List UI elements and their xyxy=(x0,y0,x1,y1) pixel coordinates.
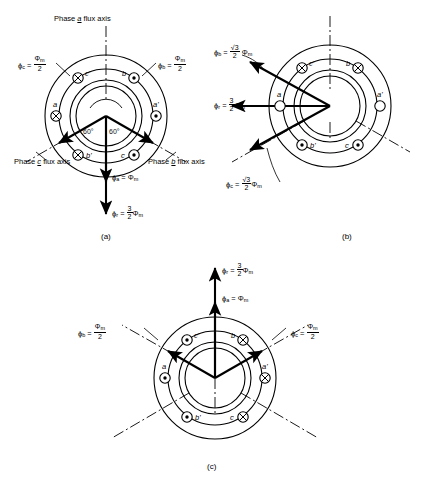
phi-a-label: ϕa = Φm xyxy=(222,295,248,304)
coil-a-prime xyxy=(151,111,161,121)
coil-b xyxy=(353,63,363,73)
coil-label-a-prime: a' xyxy=(153,100,159,109)
coil-a-prime xyxy=(260,373,270,383)
coil-label-b: b xyxy=(346,59,350,68)
coil-label-b-prime: b' xyxy=(86,151,92,160)
phi-b-vector-b xyxy=(250,62,330,106)
angle-label-left: 60° xyxy=(83,128,94,135)
panel-a-drawing: c' b a a' b' c xyxy=(0,0,212,250)
panel-a: c' b a a' b' c Phase a flux axis Phase c… xyxy=(0,0,212,250)
coil-label-c: c xyxy=(121,151,125,160)
phi-c-vector-b xyxy=(250,106,330,150)
phi-b-vector-c xyxy=(168,351,215,378)
coil-label-c-prime: c' xyxy=(194,331,200,340)
phi-c-label: ϕc = Φm2 xyxy=(291,323,319,340)
caption-b: (b) xyxy=(342,232,352,241)
coil-c-prime xyxy=(297,63,307,73)
coil-label-c-prime: c' xyxy=(85,69,91,78)
phi-c-label: ϕc = Φm2 xyxy=(18,55,46,72)
phi-r-label: ϕr = 32Φm xyxy=(214,97,245,112)
panel-c-drawing: c' b a a' b' c xyxy=(50,250,380,484)
coil-label-b-prime: b' xyxy=(195,413,201,422)
coil-c-prime xyxy=(182,335,192,345)
coil-c xyxy=(353,140,363,150)
phi-b-label: ϕb = Φm2 xyxy=(78,323,106,340)
coil-label-c: c xyxy=(230,413,234,422)
phi-r-label: ϕr = 32Φm xyxy=(112,205,143,220)
coil-label-a-prime: a' xyxy=(377,90,383,99)
panel-c: c' b a a' b' c ϕr = 32Φm ϕa = Φm ϕb = Φm… xyxy=(50,250,380,484)
caption-a: (a) xyxy=(101,232,111,241)
coil-label-a-prime: a' xyxy=(262,362,268,371)
coil-a xyxy=(160,373,170,383)
angle-label-right: 60° xyxy=(109,128,120,135)
phi-b-label: ϕb = √32 Φm xyxy=(214,44,252,59)
panel-b: c' b a a' b' c ϕb = √32 Φm ϕr = 32Φm ϕc … xyxy=(212,0,424,250)
phi-c-label: ϕc = √32Φm xyxy=(226,176,262,191)
coil-b xyxy=(238,335,248,345)
coil-label-c-prime: c' xyxy=(309,59,315,68)
coil-label-b: b xyxy=(231,331,235,340)
phase-c-axis-label: Phase c flux axis xyxy=(14,158,70,167)
coil-label-b-prime: b' xyxy=(310,141,316,150)
coil-label-b: b xyxy=(122,69,126,78)
phi-b-label: ϕb = Φm2 xyxy=(158,55,186,72)
coil-label-c: c xyxy=(345,141,349,150)
caption-c: (c) xyxy=(207,462,216,471)
phase-b-axis-label: Phase b flux axis xyxy=(148,158,205,167)
coil-b xyxy=(129,73,139,83)
coil-c xyxy=(129,150,139,160)
phi-c-vector-c xyxy=(215,351,262,378)
coil-b-prime xyxy=(297,140,307,150)
panel-b-drawing: c' b a a' b' c xyxy=(212,0,424,250)
coil-label-a: a xyxy=(277,90,281,99)
coil-a xyxy=(275,101,285,111)
coil-a xyxy=(51,111,61,121)
coil-label-a: a xyxy=(162,362,166,371)
coil-a-prime xyxy=(375,101,385,111)
coil-c xyxy=(238,412,248,422)
phi-r-label: ϕr = 32Φm xyxy=(222,262,253,277)
phi-a-label: ϕa = Φm xyxy=(112,174,138,183)
phase-a-axis-label: Phase a flux axis xyxy=(54,15,111,24)
coil-c-prime xyxy=(73,73,83,83)
coil-b-prime xyxy=(182,412,192,422)
coil-b-prime xyxy=(73,150,83,160)
coil-label-a: a xyxy=(53,100,57,109)
